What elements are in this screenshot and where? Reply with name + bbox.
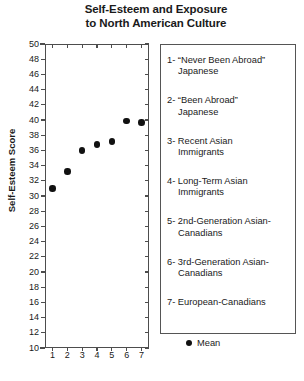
y-axis-tick-right	[145, 211, 149, 212]
y-axis-tick-label: 36	[29, 146, 39, 155]
x-axis-tick-label: 4	[90, 351, 104, 360]
y-axis-tick	[41, 119, 45, 120]
x-axis-tick-top	[96, 44, 97, 48]
legend-item-label-line-1: 3rd-Generation Asian-	[178, 257, 269, 267]
y-axis-tick-label: 34	[29, 161, 39, 170]
legend-item: 2- “Been Abroad”Japanese	[167, 95, 291, 118]
y-axis-tick-label: 40	[29, 116, 39, 125]
x-axis-tick-label: 3	[75, 351, 89, 360]
y-axis-tick-right	[145, 302, 149, 303]
data-point	[79, 147, 86, 154]
y-axis-tick-label: 18	[29, 283, 39, 292]
x-axis-tick-top	[82, 44, 83, 48]
y-axis-tick-label: 22	[29, 252, 39, 261]
legend-item-label-line-1: 2nd-Generation Asian-	[178, 216, 271, 226]
y-axis-tick-label: 46	[29, 70, 39, 79]
y-axis-tick-label: 50	[29, 40, 39, 49]
legend-item: 1- “Never Been Abroad”Japanese	[167, 55, 291, 78]
legend-item-number: 4-	[167, 176, 178, 186]
y-axis-tick-right	[145, 180, 149, 181]
y-axis-tick	[41, 104, 45, 105]
legend-item-label-line-2: Immigrants	[167, 147, 291, 158]
y-axis-tick-right	[145, 165, 149, 166]
data-point	[49, 185, 56, 192]
legend-item-label-line-1: Recent Asian	[178, 136, 233, 146]
y-axis-tick-label: 44	[29, 85, 39, 94]
y-axis-tick	[41, 59, 45, 60]
chart-title-line-2: to North American Culture	[48, 16, 264, 30]
y-axis-tick	[41, 332, 45, 333]
y-axis-tick	[40, 347, 45, 348]
legend-item-number: 7-	[167, 297, 178, 307]
y-axis-tick-label: 12	[29, 328, 39, 337]
legend-item: 7- European-Canadians	[167, 297, 291, 308]
x-axis-tick-label: 2	[60, 351, 74, 360]
y-axis-tick-right	[145, 119, 149, 120]
legend-item-number: 6-	[167, 257, 178, 267]
y-axis-tick	[41, 226, 45, 227]
y-axis-tick	[41, 302, 45, 303]
y-axis-tick	[40, 43, 45, 44]
x-axis-tick-top	[67, 44, 68, 48]
y-axis-tick-label: 16	[29, 298, 39, 307]
legend-item-label-line-1: European-Canadians	[178, 297, 266, 307]
legend-mean-label: Mean	[197, 338, 220, 348]
data-point	[64, 168, 71, 175]
data-point	[94, 141, 101, 148]
y-axis-tick	[41, 135, 45, 136]
y-axis-tick-label: 48	[29, 55, 39, 64]
plot-area: 5048464442403836343230282624222018161412…	[45, 44, 149, 348]
y-axis-tick-right	[145, 104, 149, 105]
y-axis-tick-right	[145, 89, 149, 90]
x-axis-tick-top	[126, 44, 127, 48]
y-axis-tick-label: 14	[29, 313, 39, 322]
legend-item-number: 3-	[167, 136, 178, 146]
y-axis-tick-right	[145, 287, 149, 288]
y-axis-tick-right	[145, 195, 149, 196]
legend-box: 1- “Never Been Abroad”Japanese2- “Been A…	[160, 44, 296, 334]
y-axis-tick-right	[145, 271, 149, 272]
mean-marker-icon	[186, 340, 192, 346]
legend-mean-entry: Mean	[186, 338, 220, 349]
x-axis-tick-top	[141, 44, 142, 48]
legend-item: 6- 3rd-Generation Asian-Canadians	[167, 257, 291, 280]
legend-item-number: 2-	[167, 95, 178, 105]
x-axis-tick-label: 7	[135, 351, 149, 360]
x-axis-tick-top	[52, 44, 53, 48]
legend-item-label-line-2: Canadians	[167, 228, 291, 239]
data-point	[109, 138, 116, 145]
y-axis-tick-label: 42	[29, 100, 39, 109]
y-axis-tick-label: 38	[29, 131, 39, 140]
y-axis-line-left	[45, 44, 46, 348]
y-axis-tick-right	[145, 241, 149, 242]
y-axis-tick-label: 10	[29, 344, 39, 353]
y-axis-tick	[41, 287, 45, 288]
chart-figure: Self-Esteem and Exposure to North Americ…	[0, 0, 304, 381]
y-axis-tick	[41, 165, 45, 166]
y-axis-tick	[41, 74, 45, 75]
legend-item-number: 1-	[167, 55, 178, 65]
y-axis-tick	[41, 89, 45, 90]
y-axis-tick-right	[145, 135, 149, 136]
y-axis-tick-label: 32	[29, 176, 39, 185]
y-axis-tick-right	[145, 332, 149, 333]
y-axis-tick	[41, 150, 45, 151]
y-axis-label: Self-Esteem Score	[6, 116, 17, 226]
y-axis-tick-label: 26	[29, 222, 39, 231]
y-axis-tick	[41, 195, 45, 196]
chart-title: Self-Esteem and Exposure to North Americ…	[48, 2, 264, 30]
x-axis-tick-label: 1	[45, 351, 59, 360]
y-axis-tick-right	[145, 74, 149, 75]
y-axis-tick	[41, 271, 45, 272]
legend-item-label-line-1: “Never Been Abroad”	[178, 55, 265, 65]
chart-title-line-1: Self-Esteem and Exposure	[48, 2, 264, 16]
legend-item-number: 5-	[167, 216, 178, 226]
legend-item-label-line-1: Long-Term Asian	[178, 176, 248, 186]
y-axis-tick-label: 24	[29, 237, 39, 246]
y-axis-tick	[41, 180, 45, 181]
x-axis-tick-label: 6	[120, 351, 134, 360]
legend-item-label-line-2: Japanese	[167, 66, 291, 77]
legend-item-label-line-2: Japanese	[167, 107, 291, 118]
y-axis-tick	[41, 317, 45, 318]
y-axis-tick-right	[145, 43, 149, 44]
